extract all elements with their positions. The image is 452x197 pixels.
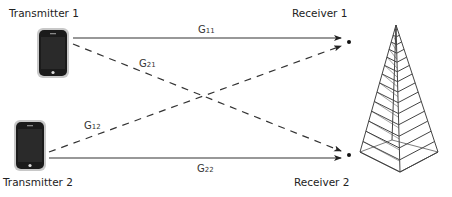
gain-label-g12: G12 (84, 120, 101, 131)
receiver-2-dot (347, 153, 351, 157)
receiver-1-dot (347, 40, 351, 44)
link-g12 (49, 46, 341, 152)
receiver-2-label: Receiver 2 (294, 176, 349, 188)
receiver-1-label: Receiver 1 (292, 7, 347, 19)
transmitter-1-phone-icon (37, 28, 69, 78)
gain-label-g22: G22 (197, 163, 214, 174)
transmitter-2-phone-icon (14, 120, 46, 171)
cell-tower-icon (360, 25, 438, 172)
diagram-canvas (0, 0, 452, 197)
gain-label-g21: G21 (139, 58, 156, 69)
transmitter-2-label: Transmitter 2 (3, 176, 73, 188)
gain-label-g11: G11 (198, 24, 215, 35)
link-g21 (73, 44, 341, 151)
transmitter-1-label: Transmitter 1 (9, 7, 79, 19)
